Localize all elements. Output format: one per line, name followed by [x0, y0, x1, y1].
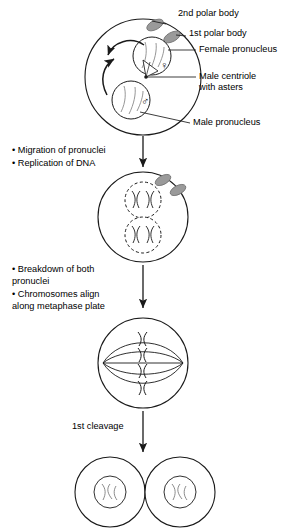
bullet-breakdown-pronuclei-1: • Breakdown of both [12, 263, 94, 275]
pronucleus-dashed-lower [125, 217, 161, 253]
stage-zygote-replicated-dna [98, 172, 188, 262]
label-first-cleavage: 1st cleavage [72, 421, 124, 432]
bullet-chromosomes-align-2: along metaphase plate [12, 300, 105, 312]
daughter-nucleus-left [94, 476, 126, 508]
stage-zygote-metaphase [98, 318, 188, 408]
pronucleus-dashed-upper [125, 182, 161, 218]
bullet-breakdown-pronuclei-2: pronuclei [12, 275, 49, 287]
stage-two-cell-embryo [75, 457, 215, 527]
female-symbol: ♀ [160, 60, 168, 71]
label-female-pronucleus: Female pronucleus [199, 44, 277, 55]
bullet-chromosomes-align-1: • Chromosomes align [12, 288, 99, 300]
fertilization-diagram: 2nd polar body 1st polar body Female pro… [0, 0, 294, 528]
daughter-nucleus-right [164, 476, 196, 508]
label-male-centriole-line1: Male centriole [199, 71, 256, 82]
label-first-polar-body: 1st polar body [189, 28, 247, 39]
male-symbol: ♂ [141, 96, 149, 107]
label-second-polar-body: 2nd polar body [178, 8, 239, 19]
label-male-pronucleus: Male pronucleus [193, 117, 260, 128]
bullet-replication-dna: • Replication of DNA [12, 157, 95, 169]
stage-zygote-pronuclei [85, 17, 201, 135]
bullet-migration-pronuclei: • Migration of pronuclei [12, 144, 106, 156]
label-male-centriole-line2: with asters [199, 82, 243, 93]
